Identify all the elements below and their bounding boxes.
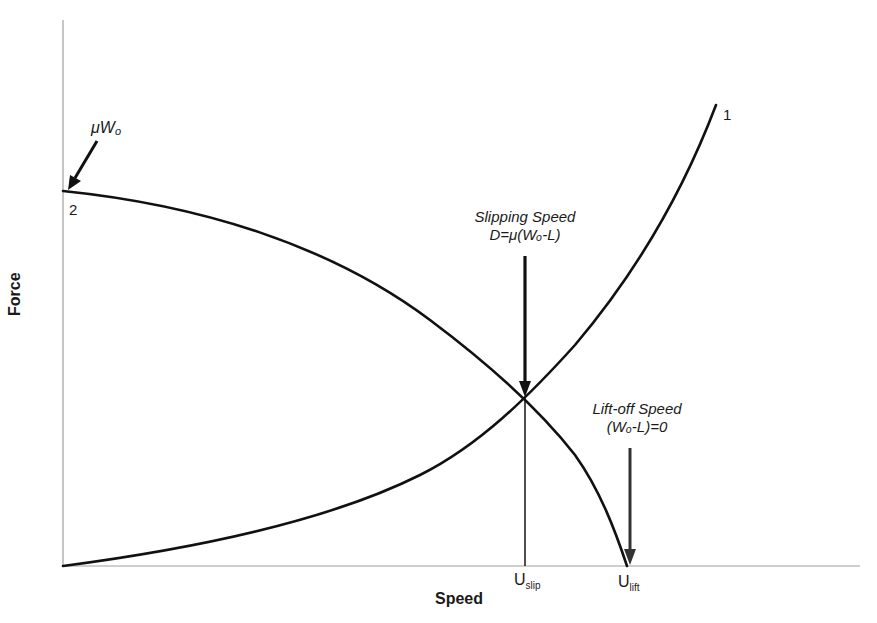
curve-2-label: 2 [69,201,77,218]
lift-off-title: Lift-off Speed [572,400,702,418]
slipping-speed-equation: D=μ(Wₒ-L) [455,226,595,244]
force-speed-chart [0,0,877,623]
lift-off-equation: (Wₒ-L)=0 [572,418,702,436]
curve-1 [63,105,716,566]
u-slip-label: Uslip [514,571,541,589]
curve-1-label: 1 [723,106,731,123]
slipping-speed-annotation: Slipping Speed D=μ(Wₒ-L) [455,208,595,244]
x-axis-label: Speed [435,590,483,608]
lift-off-arrow [624,448,636,565]
u-lift-label: Ulift [618,573,640,591]
u-lift-main: U [618,573,630,590]
slipping-speed-title: Slipping Speed [455,208,595,226]
w-subscript: o [115,125,121,137]
slipping-speed-arrow [519,256,531,397]
u-slip-sub: slip [526,580,541,591]
w-symbol: W [100,119,115,136]
u-lift-sub: lift [630,582,640,593]
lift-off-annotation: Lift-off Speed (Wₒ-L)=0 [572,400,702,436]
mu-symbol: μ [91,119,100,136]
mu-w0-arrow [68,141,97,190]
y-axis-label: Force [6,272,24,316]
mu-w0-label: μWo [91,119,121,138]
u-slip-main: U [514,571,526,588]
